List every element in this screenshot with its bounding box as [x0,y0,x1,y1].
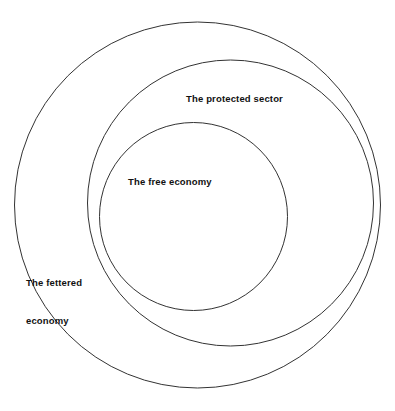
diagram-canvas: The protected sector The free economy Th… [0,0,395,411]
label-fettered-economy-line-1: The fettered [26,277,82,290]
label-free-economy: The free economy [128,176,212,189]
label-fettered-economy: The fettered economy [26,252,82,352]
label-protected-sector: The protected sector [186,93,283,106]
label-fettered-economy-line-2: economy [26,315,82,328]
